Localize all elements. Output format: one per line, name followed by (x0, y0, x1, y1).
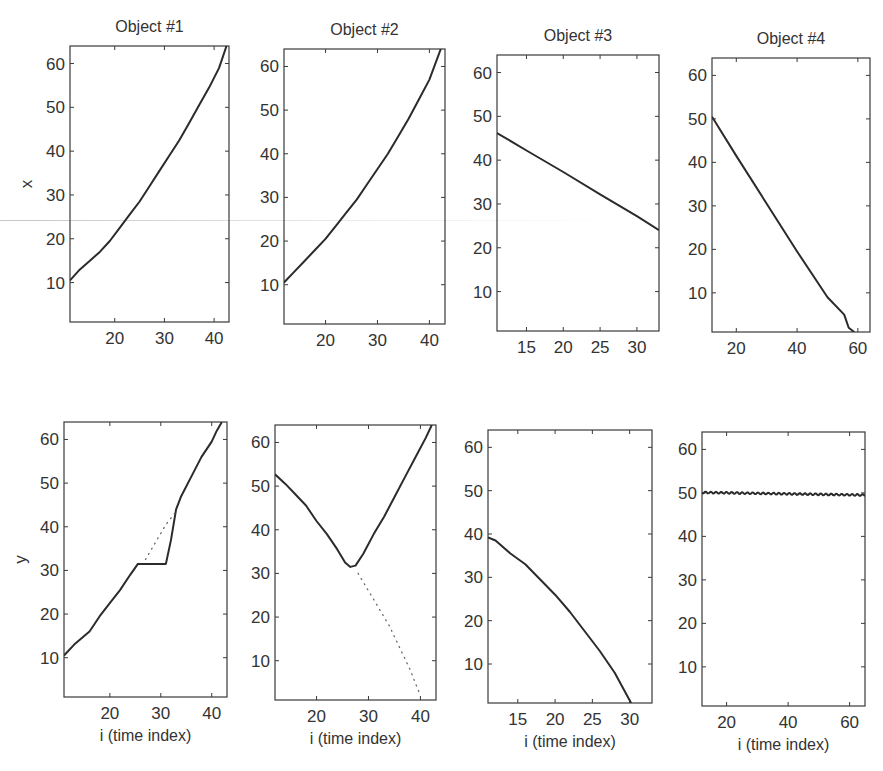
x-tick-label: 30 (155, 329, 174, 348)
x-tick-label: 25 (591, 338, 610, 357)
y-tick-label: 10 (688, 284, 707, 303)
y-tick-label: 50 (688, 110, 707, 129)
y-tick-label: 10 (260, 276, 279, 295)
y-tick-label: 20 (46, 230, 65, 249)
subplot-title: Object #1 (115, 18, 184, 35)
y-tick-label: 30 (473, 195, 492, 214)
y-tick-label: 60 (464, 438, 483, 457)
x-tick-label: 40 (205, 329, 224, 348)
x-tick-label: 15 (508, 710, 527, 729)
y-tick-label: 40 (688, 153, 707, 172)
x-tick-label: 20 (105, 329, 124, 348)
y-tick-label: 40 (678, 527, 697, 546)
axes-frame (275, 425, 436, 700)
x-tick-label: 60 (840, 713, 859, 732)
x-axis-label: i (time index) (310, 730, 402, 747)
y-tick-label: 30 (40, 561, 59, 580)
x-tick-label: 30 (627, 338, 646, 357)
y-tick-label: 50 (473, 107, 492, 126)
y-axis-label: x (17, 179, 36, 188)
y-tick-label: 60 (260, 57, 279, 76)
y-tick-label: 10 (40, 649, 59, 668)
y-tick-label: 50 (464, 482, 483, 501)
y-tick-label: 10 (251, 652, 270, 671)
y-tick-label: 10 (678, 658, 697, 677)
y-tick-label: 30 (464, 568, 483, 587)
x-tick-label: 20 (554, 338, 573, 357)
y-tick-label: 60 (688, 66, 707, 85)
y-tick-label: 60 (251, 433, 270, 452)
y-tick-label: 40 (40, 518, 59, 537)
y-tick-label: 50 (40, 474, 59, 493)
trajectory-line (488, 538, 631, 704)
y-tick-label: 50 (678, 484, 697, 503)
x-axis-label: i (time index) (738, 736, 830, 753)
x-tick-label: 20 (727, 339, 746, 358)
x-tick-label: 20 (100, 704, 119, 723)
axes-frame (712, 58, 870, 332)
y-tick-label: 20 (260, 232, 279, 251)
axes-frame (497, 55, 659, 331)
y-tick-label: 60 (46, 55, 65, 74)
trajectory-line (702, 492, 865, 496)
subplot-panel-6: 102030405060203040i (time index) (251, 425, 436, 747)
trajectory-line (284, 49, 441, 283)
x-tick-label: 30 (151, 704, 170, 723)
subplot-panel-7: 10203040506015202530i (time index) (464, 430, 652, 750)
x-tick-label: 30 (368, 331, 387, 350)
y-tick-label: 20 (678, 614, 697, 633)
trajectory-line (70, 46, 227, 280)
y-tick-label: 40 (46, 142, 65, 161)
x-tick-label: 15 (517, 338, 536, 357)
subplot-panel-1: 102030405060203040Object #1x (17, 18, 229, 348)
y-tick-label: 30 (251, 564, 270, 583)
subplot-panel-3: 10203040506015202530Object #3 (473, 27, 659, 357)
predicted-path-dotted (358, 573, 420, 695)
y-tick-label: 50 (260, 101, 279, 120)
subplot-title: Object #4 (757, 30, 826, 47)
x-tick-label: 20 (307, 707, 326, 726)
trajectory-line (275, 425, 432, 567)
axes-frame (702, 432, 865, 706)
subplot-panel-2: 102030405060203040Object #2 (260, 21, 445, 350)
x-tick-label: 40 (420, 331, 439, 350)
y-tick-label: 20 (40, 605, 59, 624)
y-tick-label: 30 (688, 197, 707, 216)
subplot-title: Object #2 (330, 21, 399, 38)
y-tick-label: 60 (473, 64, 492, 83)
axes-frame (488, 430, 652, 703)
x-tick-label: 25 (583, 710, 602, 729)
y-tick-label: 40 (473, 151, 492, 170)
subplot-panel-4: 102030405060204060Object #4 (688, 30, 870, 358)
y-tick-label: 40 (251, 521, 270, 540)
x-axis-label: i (time index) (524, 733, 616, 750)
x-tick-label: 20 (546, 710, 565, 729)
trajectory-line (497, 133, 659, 230)
y-tick-label: 30 (260, 188, 279, 207)
x-axis-label: i (time index) (100, 727, 192, 744)
y-tick-label: 20 (251, 608, 270, 627)
y-tick-label: 40 (260, 145, 279, 164)
y-tick-label: 20 (688, 240, 707, 259)
x-tick-label: 30 (359, 707, 378, 726)
x-tick-label: 20 (316, 331, 335, 350)
y-tick-label: 30 (678, 571, 697, 590)
axes-frame (70, 46, 229, 322)
subplot-title: Object #3 (544, 27, 613, 44)
y-tick-label: 60 (40, 430, 59, 449)
x-tick-label: 40 (202, 704, 221, 723)
x-tick-label: 40 (411, 707, 430, 726)
y-tick-label: 20 (473, 239, 492, 258)
y-tick-label: 30 (46, 186, 65, 205)
y-tick-label: 50 (251, 477, 270, 496)
x-tick-label: 30 (620, 710, 639, 729)
subplot-panel-8: 102030405060204060i (time index) (678, 432, 865, 753)
x-tick-label: 40 (779, 713, 798, 732)
y-tick-label: 10 (46, 274, 65, 293)
x-tick-label: 40 (788, 339, 807, 358)
trajectory-line (64, 422, 222, 656)
subplot-panel-5: 102030405060203040i (time index)y (11, 422, 227, 744)
y-tick-label: 50 (46, 98, 65, 117)
y-tick-label: 10 (473, 283, 492, 302)
figure-canvas: 102030405060203040Object #1x102030405060… (0, 0, 883, 771)
